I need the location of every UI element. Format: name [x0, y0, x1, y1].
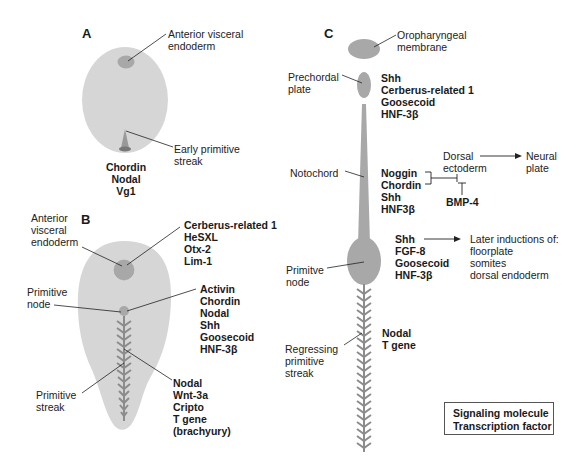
genes-streak-b: Nodal Wnt-3a Cripto T gene (brachyury) [173, 377, 231, 437]
label-neural-plate: Neural plate [526, 150, 557, 174]
genes-node-b: Activin Chordin Nodal Shh Goosecoid HNF-… [200, 283, 254, 355]
panel-label-a: A [82, 26, 91, 41]
label-later-inductions: Later inductions of: floorplate somites … [470, 233, 559, 281]
legend-signaling-molecule: Signaling molecule [453, 407, 553, 420]
genes-node-c: Shh FGF-8 Goosecoid HNF-3β [395, 233, 449, 281]
genes-notochord-rest: Shh HNF3β [381, 191, 415, 215]
panel-label-c: C [324, 26, 333, 41]
genes-prechordal: Shh Cerberus-related 1 Goosecoid HNF-3β [381, 72, 474, 120]
inhibition-bracket [425, 172, 466, 195]
gene-chordin: Chordin [381, 179, 421, 191]
label-node-b: Primitive node [27, 286, 67, 310]
genes-streak-c: Nodal T gene [382, 327, 416, 351]
notochord [358, 104, 370, 244]
label-node-c: Primitve node [286, 264, 324, 288]
ave-a [118, 56, 135, 69]
label-oropharyngeal: Oropharyngeal membrane [397, 29, 466, 53]
label-ave-a: Anterior visceral endoderm [168, 28, 243, 52]
primitive-node-c [347, 237, 381, 285]
label-regressing-streak: Regressing primitive streak [285, 343, 338, 379]
leader-oropharyngeal [374, 35, 396, 47]
label-dorsal-ectoderm: Dorsal ectoderm [443, 150, 487, 174]
label-early-streak-a: Early primitive streak [174, 143, 240, 167]
label-streak-b: Primitive streak [36, 389, 76, 413]
label-prechordal: Prechordal plate [288, 71, 339, 95]
regressing-streak-c [357, 284, 371, 452]
oropharyngeal-membrane [348, 39, 380, 59]
genes-ave-b: Cerberus-related 1 HeSXL Otx-2 Lim-1 [184, 219, 277, 267]
legend-transcription-factor: Transcription factor [453, 420, 553, 433]
label-notochord: Notochord [290, 167, 338, 179]
ave-b [114, 260, 134, 280]
gene-noggin: Noggin [381, 167, 417, 179]
genes-a: Chordin Nodal Vg1 [104, 161, 148, 197]
early-streak-base-a [119, 147, 131, 152]
legend-box: Signaling molecule Transcription factor [444, 402, 554, 435]
gene-bmp4: BMP-4 [446, 196, 479, 208]
label-ave-b: Anterior visceral endoderm [31, 212, 78, 248]
panel-label-b: B [81, 212, 90, 227]
prechordal-plate [357, 72, 371, 98]
